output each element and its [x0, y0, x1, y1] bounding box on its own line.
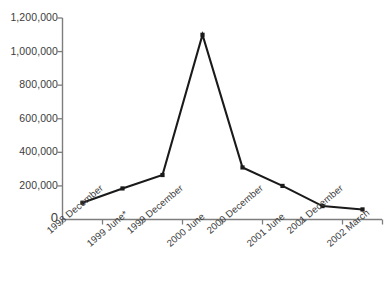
x-axis-tick-label: 2001 December	[285, 182, 345, 235]
x-axis-tick-label: 2002 March	[325, 207, 371, 248]
line-chart: 0200,000400,000600,000800,0001,000,0001,…	[0, 0, 392, 302]
x-axis-tick-label: 1999 June*	[85, 208, 130, 248]
x-axis-tick-label: 2000 December	[205, 182, 265, 235]
x-axis-tick-label: 1998 December	[45, 182, 105, 235]
x-axis-tick-label: 2001 June	[245, 211, 287, 248]
x-axis-tick-label: 1999 December	[125, 182, 185, 235]
x-axis-labels: 1998 December1999 June*1999 December2000…	[0, 0, 392, 302]
x-axis-tick-label: 2000 June	[165, 211, 207, 248]
